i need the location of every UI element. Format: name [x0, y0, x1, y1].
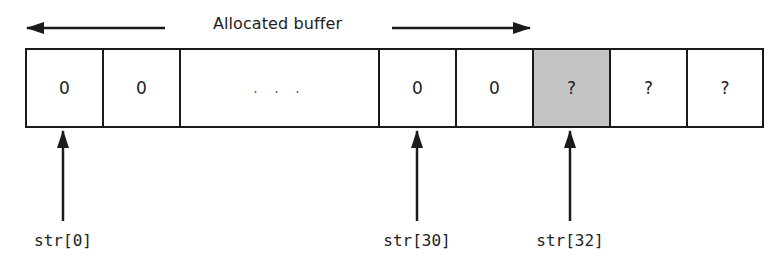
- cell-value: 0: [136, 78, 147, 98]
- buffer-cell: 0: [25, 48, 104, 128]
- cell-value: . . .: [253, 80, 305, 96]
- pointer-label: str[32]: [536, 231, 603, 250]
- arrows-layer: [0, 0, 781, 267]
- cell-value: 0: [59, 78, 70, 98]
- buffer-cell: 0: [455, 48, 534, 128]
- buffer-cell: 0: [378, 48, 457, 128]
- cell-value: ?: [720, 78, 729, 98]
- diagram-title: Allocated buffer: [190, 14, 365, 33]
- pointer-label: str[0]: [34, 231, 92, 250]
- buffer-cell: ?: [609, 48, 688, 128]
- buffer-cell: ?: [686, 48, 764, 128]
- cell-value: 0: [412, 78, 423, 98]
- cell-value: ?: [567, 78, 576, 98]
- buffer-cell: 0: [102, 48, 181, 128]
- pointer-label: str[30]: [383, 231, 450, 250]
- cell-value: ?: [644, 78, 653, 98]
- cell-value: 0: [489, 78, 500, 98]
- buffer-cell-shaded: ?: [532, 48, 611, 128]
- buffer-diagram: Allocated buffer 0 0 . . . 0 0 ? ? ? str…: [0, 0, 781, 267]
- buffer-cell-ellipsis: . . .: [179, 48, 380, 128]
